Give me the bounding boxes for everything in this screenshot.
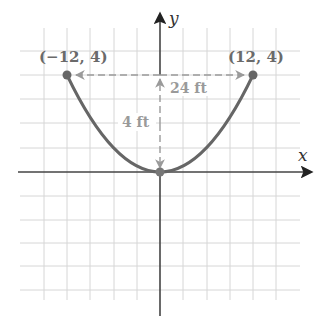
- point-vertex: [156, 168, 165, 177]
- point-right: [249, 71, 258, 80]
- y-axis-label: y: [168, 8, 179, 28]
- parabola-diagram: y x 24 ft 4 ft (−12, 4) (12, 4): [0, 0, 334, 329]
- width-dimension-label: 24 ft: [170, 80, 207, 96]
- height-dimension-label: 4 ft: [122, 114, 150, 130]
- point-left-label: (−12, 4): [39, 48, 108, 66]
- point-right-label: (12, 4): [228, 48, 284, 66]
- point-left: [63, 71, 72, 80]
- x-axis-label: x: [298, 145, 308, 165]
